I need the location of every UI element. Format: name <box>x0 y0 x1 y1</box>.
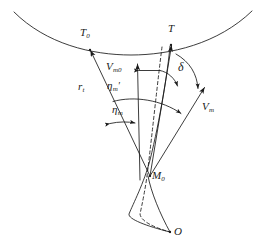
vertical-reference-axis <box>138 64 141 180</box>
angle-arc-inner <box>160 71 178 87</box>
label-missile-velocity-initial: Vm0 <box>106 61 121 74</box>
trajectory-lower-loop <box>148 176 170 232</box>
angle-arc-outer <box>113 99 181 114</box>
label-target-current: T <box>168 23 174 34</box>
label-lead-angle: ηm <box>112 104 123 117</box>
label-origin-point: O <box>174 226 182 237</box>
geometry-figure: T0 T Vm0 ηm′ ηm rt δ Vm M0 O <box>0 0 263 247</box>
label-lead-angle-prime: ηm′ <box>107 80 120 93</box>
point-T0 <box>89 49 91 51</box>
point-M0 <box>149 175 151 177</box>
missile-velocity-vector <box>150 88 205 177</box>
trajectory-solid <box>129 46 170 232</box>
label-deviation-angle: δ <box>178 61 184 73</box>
target-path-arc <box>14 11 252 55</box>
angle-arc-small-eta <box>110 122 135 124</box>
label-missile-velocity: Vm <box>202 101 214 114</box>
label-target-initial: T0 <box>80 27 90 40</box>
label-missile-initial-position: M0 <box>152 170 165 183</box>
label-range-to-target: rt <box>78 81 84 94</box>
figure-canvas <box>0 0 263 247</box>
point-T <box>170 44 172 46</box>
vertex-dots <box>89 44 172 233</box>
point-O <box>169 231 171 233</box>
